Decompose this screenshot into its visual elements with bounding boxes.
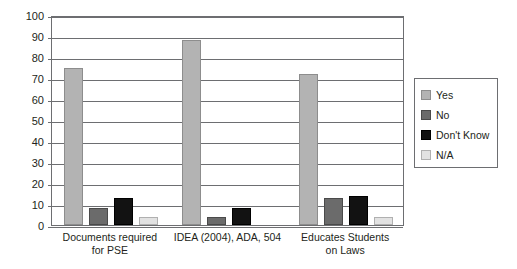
y-tick-label-90: 90 — [32, 32, 44, 43]
bar-no-group-3 — [324, 198, 343, 225]
bar-chart: 0102030405060708090100 Documents require… — [0, 0, 517, 269]
bar-no-group-1 — [89, 208, 108, 225]
x-category-label-1: Documents requiredfor PSE — [51, 231, 169, 257]
legend-swatch-dont-know-icon — [421, 130, 431, 140]
y-tick-label-70: 70 — [32, 74, 44, 85]
bar-groups — [52, 17, 403, 225]
legend-item-na: N/A — [421, 145, 497, 165]
gridline-0 — [52, 227, 403, 228]
y-tick-label-0: 0 — [38, 221, 44, 232]
x-category-label-3: Educates Studentson Laws — [286, 231, 404, 257]
x-category-label-line: Educates Students — [286, 231, 404, 244]
legend-swatch-na-icon — [421, 150, 431, 160]
bar-na-group-1 — [139, 217, 158, 225]
legend-item-yes: Yes — [421, 85, 497, 105]
bar-yes-group-2 — [182, 40, 201, 225]
y-tick-label-50: 50 — [32, 116, 44, 127]
x-category-label-line: Documents required — [51, 231, 169, 244]
y-tick-label-30: 30 — [32, 158, 44, 169]
legend-swatch-no-icon — [421, 110, 431, 120]
bar-no-group-2 — [207, 217, 226, 225]
x-category-label-line: for PSE — [51, 244, 169, 257]
y-tick-label-100: 100 — [26, 11, 44, 22]
plot-area — [51, 16, 404, 226]
y-tick-label-10: 10 — [32, 200, 44, 211]
y-axis-tick-labels: 0102030405060708090100 — [14, 16, 44, 226]
legend-label-no: No — [436, 110, 449, 121]
bar-dontknow-group-2 — [232, 208, 251, 225]
y-tick-label-20: 20 — [32, 179, 44, 190]
y-tick-label-40: 40 — [32, 137, 44, 148]
y-tick-label-60: 60 — [32, 95, 44, 106]
x-category-label-line: on Laws — [286, 244, 404, 257]
y-tick-label-80: 80 — [32, 53, 44, 64]
bar-na-group-3 — [374, 217, 393, 225]
bar-yes-group-3 — [299, 74, 318, 225]
x-category-label-2: IDEA (2004), ADA, 504 — [169, 231, 287, 244]
legend-label-yes: Yes — [436, 90, 453, 101]
legend: Yes No Don't Know N/A — [414, 78, 498, 168]
y-tickmark-0 — [48, 227, 52, 228]
bar-dontknow-group-1 — [114, 198, 133, 225]
legend-label-na: N/A — [436, 150, 454, 161]
legend-swatch-yes-icon — [421, 90, 431, 100]
bar-yes-group-1 — [64, 68, 83, 226]
legend-item-no: No — [421, 105, 497, 125]
legend-item-dont-know: Don't Know — [421, 125, 497, 145]
legend-label-dont-know: Don't Know — [436, 130, 489, 141]
x-category-label-line: IDEA (2004), ADA, 504 — [169, 231, 287, 244]
x-axis-category-labels: Documents requiredfor PSEIDEA (2004), AD… — [51, 231, 404, 267]
bar-dontknow-group-3 — [349, 196, 368, 225]
